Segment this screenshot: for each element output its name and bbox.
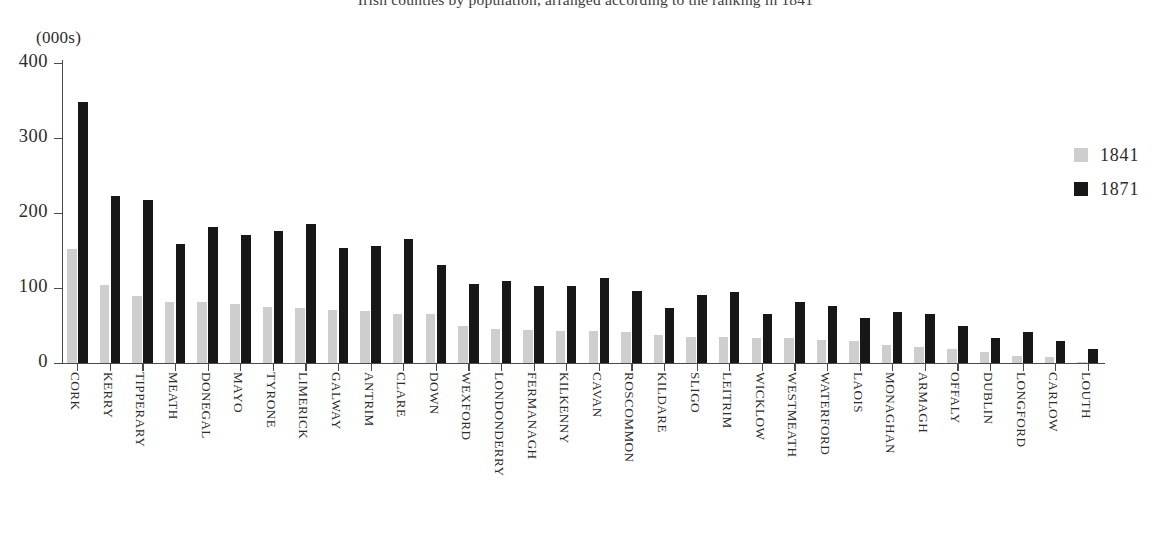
x-axis-label-tyrone: TYRONE — [263, 372, 279, 428]
x-axis-tick — [142, 364, 143, 371]
x-axis-label-clare: CLARE — [393, 372, 409, 417]
bar-sligo-1871 — [697, 295, 707, 363]
x-axis-label-fermanagh: FERMANAGH — [524, 372, 540, 460]
bar-laois-1841 — [849, 341, 859, 364]
x-axis-tick — [631, 364, 632, 371]
bar-down-1841 — [426, 314, 436, 363]
bar-offaly-1871 — [958, 326, 968, 364]
x-axis-label-monaghan: MONAGHAN — [882, 372, 898, 454]
x-axis-tick — [175, 364, 176, 371]
bar-cork-1871 — [78, 102, 88, 363]
x-axis-label-waterford: WATERFORD — [817, 372, 833, 455]
x-axis-label-wicklow: WICKLOW — [752, 372, 768, 440]
bar-longford-1871 — [1023, 332, 1033, 364]
bar-wicklow-1841 — [752, 338, 762, 363]
x-axis-tick — [697, 364, 698, 371]
bar-louth-1841 — [1077, 362, 1087, 364]
legend-item-1871[interactable]: 1871 — [1074, 172, 1139, 206]
y-axis-tick — [54, 288, 63, 289]
y-axis-tick — [54, 213, 63, 214]
x-axis-tick — [925, 364, 926, 371]
population-bar-chart: Irish counties by population, arranged a… — [0, 0, 1171, 545]
bar-kilkenny-1841 — [556, 331, 566, 363]
x-axis-label-galway: GALWAY — [328, 372, 344, 430]
bar-laois-1871 — [860, 318, 870, 363]
bar-sligo-1841 — [686, 337, 696, 363]
x-axis-tick — [566, 364, 567, 371]
x-axis-tick — [860, 364, 861, 371]
bar-tyrone-1871 — [274, 231, 284, 363]
x-axis-tick — [110, 364, 111, 371]
bar-kildare-1841 — [654, 335, 664, 364]
y-axis-tick-label: 300 — [2, 126, 48, 147]
y-axis-tick — [54, 138, 63, 139]
x-axis-label-limerick: LIMERICK — [295, 372, 311, 439]
bar-antrim-1871 — [371, 246, 381, 363]
bar-wexford-1871 — [469, 284, 479, 363]
bar-kerry-1841 — [100, 285, 110, 363]
bar-monaghan-1841 — [882, 345, 892, 363]
bar-londonderry-1841 — [491, 329, 501, 363]
x-axis-tick — [208, 364, 209, 371]
bar-armagh-1841 — [914, 347, 924, 363]
bar-dublin-1871 — [991, 338, 1001, 363]
x-axis-tick — [957, 364, 958, 371]
bar-fermanagh-1841 — [523, 330, 533, 363]
bar-leitrim-1841 — [719, 337, 729, 363]
legend-label-1871: 1871 — [1100, 179, 1139, 200]
bars-layer — [62, 63, 1105, 363]
x-axis-tick — [1023, 364, 1024, 371]
x-axis-tick — [794, 364, 795, 371]
bar-clare-1841 — [393, 314, 403, 364]
legend-swatch-icon-1871 — [1074, 182, 1088, 196]
x-axis-label-westmeath: WESTMEATH — [784, 372, 800, 457]
x-axis-tick — [1088, 364, 1089, 371]
x-axis-label-leitrim: LEITRIM — [719, 372, 735, 429]
bar-kerry-1871 — [111, 196, 121, 363]
bar-armagh-1871 — [925, 314, 935, 364]
bar-donegal-1871 — [208, 227, 218, 363]
y-axis-tick — [54, 63, 63, 64]
x-axis-label-roscommon: ROSCOMMON — [621, 372, 637, 463]
x-axis-label-kildare: KILDARE — [654, 372, 670, 433]
bar-londonderry-1871 — [502, 281, 512, 363]
bar-longford-1841 — [1012, 356, 1022, 364]
bar-tipperary-1841 — [132, 296, 142, 363]
x-axis-tick — [436, 364, 437, 371]
bar-galway-1841 — [328, 310, 338, 363]
bar-fermanagh-1871 — [534, 286, 544, 363]
x-axis-label-down: DOWN — [426, 372, 442, 415]
y-axis-tick-label: 400 — [2, 51, 48, 72]
x-axis-label-laois: LAOIS — [850, 372, 866, 413]
bar-donegal-1841 — [197, 302, 207, 363]
x-axis-label-sligo: SLIGO — [687, 372, 703, 413]
legend-swatch-icon-1841 — [1074, 148, 1088, 162]
bar-leitrim-1871 — [730, 292, 740, 363]
category-labels-layer: CORKKERRYTIPPERARYMEATHDONEGALMAYOTYRONE… — [62, 372, 1105, 542]
x-axis-label-cavan: CAVAN — [589, 372, 605, 418]
x-axis-label-mayo: MAYO — [230, 372, 246, 413]
x-axis-label-kilkenny: KILKENNY — [556, 372, 572, 444]
bar-roscommon-1871 — [632, 291, 642, 363]
x-axis-tick — [338, 364, 339, 371]
bar-carlow-1871 — [1056, 341, 1066, 364]
x-axis-label-offaly: OFFALY — [947, 372, 963, 424]
x-axis-tick — [468, 364, 469, 371]
legend-item-1841[interactable]: 1841 — [1074, 138, 1139, 172]
x-axis-tick — [827, 364, 828, 371]
bar-roscommon-1841 — [621, 332, 631, 363]
bar-cavan-1871 — [600, 278, 610, 364]
x-axis-tick — [305, 364, 306, 371]
y-axis-tick-label: 0 — [2, 351, 48, 372]
x-axis-label-cork: CORK — [67, 372, 83, 410]
x-axis-label-louth: LOUTH — [1078, 372, 1094, 419]
bar-mayo-1841 — [230, 304, 240, 363]
bar-down-1871 — [437, 265, 447, 363]
x-axis-tick — [273, 364, 274, 371]
bar-meath-1841 — [165, 302, 175, 364]
x-axis-tick — [371, 364, 372, 371]
bar-dublin-1841 — [980, 352, 990, 363]
chart-legend: 1841 1871 — [1074, 138, 1139, 206]
bar-limerick-1841 — [295, 308, 305, 364]
bar-waterford-1841 — [817, 340, 827, 363]
